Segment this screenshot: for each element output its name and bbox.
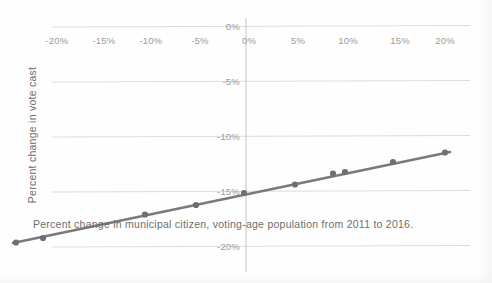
- data-point: [442, 149, 448, 155]
- x-tick-label: 15%: [390, 35, 410, 46]
- data-point: [292, 181, 298, 187]
- data-point: [330, 170, 336, 176]
- gridline-y-5: [52, 81, 470, 83]
- x-tick-label: -15%: [93, 35, 116, 46]
- x-tick-label: 20%: [435, 35, 455, 46]
- data-point: [13, 239, 19, 245]
- x-tick-label: -20%: [46, 35, 69, 46]
- y-tick-label: 0%: [226, 21, 240, 32]
- data-point: [390, 159, 396, 165]
- y-tick-label: -5%: [223, 76, 241, 87]
- data-point: [40, 235, 46, 241]
- data-point: [241, 190, 247, 196]
- x-tick-label: 10%: [338, 35, 358, 46]
- x-tick-label: -5%: [191, 35, 209, 46]
- data-point: [142, 211, 148, 217]
- y-tick-label: -20%: [217, 241, 240, 252]
- y-axis-title: Percent change in vote cast: [26, 67, 38, 203]
- data-point: [342, 169, 348, 175]
- y-tick-label: -10%: [217, 131, 240, 142]
- gridline-y-0: [52, 26, 470, 28]
- x-tick-label: -10%: [140, 35, 163, 46]
- gridlines-horizontal: [52, 26, 470, 248]
- x-tick-labels: -20% -15% -10% -5% 0% 5% 10% 15% 20%: [46, 35, 456, 46]
- data-point: [193, 202, 199, 208]
- gridline-y-20: [52, 246, 470, 248]
- scatter-plot: -20% -15% -10% -5% 0% 5% 10% 15% 20% 0% …: [0, 0, 492, 283]
- x-tick-label: 5%: [291, 35, 305, 46]
- chart-container: -20% -15% -10% -5% 0% 5% 10% 15% 20% 0% …: [0, 0, 492, 283]
- gridline-y-10: [52, 136, 470, 138]
- x-axis-caption: Percent change in municipal citizen, vot…: [33, 218, 413, 230]
- x-tick-label: 0%: [242, 35, 256, 46]
